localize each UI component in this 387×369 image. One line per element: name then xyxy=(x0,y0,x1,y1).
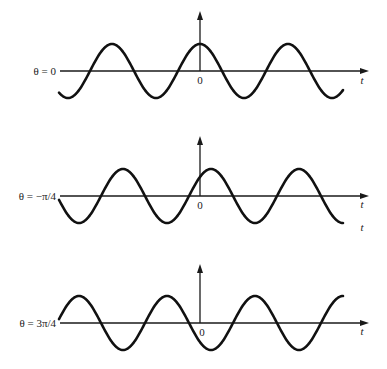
origin-label: 0 xyxy=(197,199,203,211)
origin-label: 0 xyxy=(197,74,203,86)
panel-label: θ = −π/4 xyxy=(19,190,57,202)
panel-theta-minus-pi-over-4: θ = −π/4 0 t t xyxy=(19,136,369,233)
origin-label: 0 xyxy=(199,326,205,338)
panel-theta-3pi-over-4: θ = 3π/4 0 t xyxy=(19,264,369,350)
panel-theta-0: θ = 0 0 t xyxy=(34,11,369,98)
amplitude-axis-arrow-icon xyxy=(197,136,203,145)
t-axis-label: t xyxy=(360,325,364,337)
amplitude-axis-arrow-icon xyxy=(197,264,203,273)
t-axis-label: t xyxy=(360,198,364,210)
amplitude-axis-arrow-icon xyxy=(197,11,203,20)
t-axis-label-extra: t xyxy=(360,221,364,233)
panel-label: θ = 3π/4 xyxy=(19,317,56,329)
phase-shift-figure: θ = 0 0 t θ = −π/4 0 t t θ = 3π/4 0 t xyxy=(0,0,387,369)
t-axis-label: t xyxy=(360,74,364,86)
panel-label: θ = 0 xyxy=(34,65,57,77)
